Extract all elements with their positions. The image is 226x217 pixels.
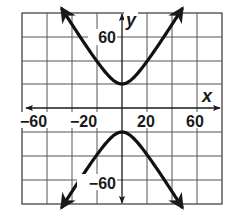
hyperbola-chart: 60 −60 −60 −20 20 60 y x — [0, 0, 226, 217]
y-tick-neg60: −60 — [89, 175, 116, 192]
x-tick-neg60: −60 — [20, 113, 47, 130]
x-tick-20: 20 — [137, 113, 155, 130]
x-axis-label: x — [201, 86, 213, 106]
x-tick-60: 60 — [186, 113, 204, 130]
y-tick-60: 60 — [98, 29, 116, 46]
x-tick-neg20: −20 — [70, 113, 97, 130]
y-axis-label: y — [125, 10, 137, 30]
